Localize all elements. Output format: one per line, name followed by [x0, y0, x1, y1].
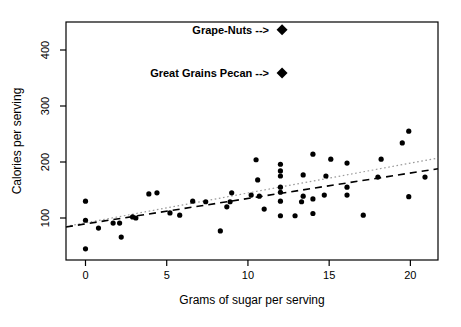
data-point — [301, 194, 306, 199]
data-point — [406, 129, 411, 134]
x-tick-label: 15 — [323, 269, 335, 281]
x-tick-label: 5 — [164, 269, 170, 281]
data-point — [167, 210, 172, 215]
y-tick-label: 300 — [39, 97, 51, 115]
data-point — [310, 152, 315, 157]
dotted-trend-line — [66, 158, 438, 226]
data-point — [255, 177, 260, 182]
data-point — [278, 168, 283, 173]
data-point — [344, 161, 349, 166]
x-axis-label: Grams of sugar per serving — [179, 293, 324, 307]
trend-lines — [66, 158, 438, 227]
highlight-diamond — [277, 24, 288, 35]
data-point — [375, 175, 380, 180]
data-point — [328, 157, 333, 162]
data-point — [406, 194, 411, 199]
data-point — [177, 213, 182, 218]
data-point — [119, 234, 124, 239]
data-point — [218, 228, 223, 233]
data-point — [278, 173, 283, 178]
data-point — [310, 196, 315, 201]
x-tick-label: 10 — [242, 269, 254, 281]
data-point — [133, 215, 138, 220]
x-tick-label: 20 — [404, 269, 416, 281]
data-point — [422, 175, 427, 180]
data-point — [344, 185, 349, 190]
data-point — [278, 162, 283, 167]
data-point — [154, 190, 159, 195]
x-tick-label: 0 — [82, 269, 88, 281]
data-point — [83, 218, 88, 223]
data-point — [111, 220, 116, 225]
y-tick-label: 400 — [39, 41, 51, 59]
data-point — [278, 199, 283, 204]
y-tick-label: 200 — [39, 153, 51, 171]
dashed-trend-line — [66, 169, 438, 227]
data-point — [299, 199, 304, 204]
data-point — [83, 199, 88, 204]
data-point — [361, 213, 366, 218]
data-point — [379, 157, 384, 162]
annotations: Grape-Nuts -->Great Grains Pecan --> — [150, 24, 287, 79]
data-point — [146, 191, 151, 196]
data-point — [278, 185, 283, 190]
data-point — [278, 190, 283, 195]
data-point — [253, 157, 258, 162]
data-point — [323, 173, 328, 178]
scatter-plot: 05101520100200300400 Grape-Nuts -->Great… — [0, 0, 461, 327]
data-point — [203, 199, 208, 204]
data-point — [278, 213, 283, 218]
data-point — [301, 172, 306, 177]
data-point — [344, 192, 349, 197]
scatter-plot-figure: 05101520100200300400 Grape-Nuts -->Great… — [0, 0, 461, 327]
data-point — [292, 213, 297, 218]
data-point — [96, 225, 101, 230]
data-point — [400, 140, 405, 145]
data-point — [249, 192, 254, 197]
data-points — [83, 129, 428, 252]
highlight-diamond — [277, 67, 288, 78]
data-point — [229, 190, 234, 195]
data-point — [257, 194, 262, 199]
data-point — [224, 204, 229, 209]
data-point — [310, 211, 315, 216]
data-point — [262, 206, 267, 211]
data-point — [83, 246, 88, 251]
annotation-label: Great Grains Pecan --> — [150, 67, 269, 79]
data-point — [322, 192, 327, 197]
data-point — [227, 199, 232, 204]
y-tick-label: 100 — [39, 209, 51, 227]
data-point — [117, 220, 122, 225]
data-point — [190, 199, 195, 204]
annotation-label: Grape-Nuts --> — [192, 24, 269, 36]
y-axis-label: Calories per serving — [10, 88, 24, 195]
